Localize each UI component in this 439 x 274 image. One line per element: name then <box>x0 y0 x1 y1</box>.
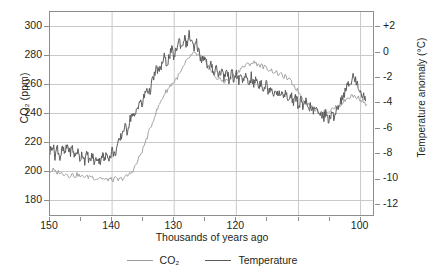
legend-label: CO₂ <box>160 254 180 266</box>
y-tick-right-+2: +2 <box>383 19 409 31</box>
y-tick-mark-right <box>375 26 380 27</box>
y-tick-left-300: 300 <box>8 19 42 31</box>
y-tick-mark-right <box>375 77 380 78</box>
y-tick-left-220: 220 <box>8 135 42 147</box>
legend-item: CO₂ <box>127 254 180 266</box>
y-axis-right-title: Temperature anomaly (°C) <box>416 23 427 173</box>
y-tick-right--12: -12 <box>383 197 409 209</box>
series-line-temperature <box>50 30 366 165</box>
y-tick-mark-right <box>375 204 380 205</box>
y-tick-left-260: 260 <box>8 77 42 89</box>
x-tick-label-130: 130 <box>153 219 193 231</box>
y-tick-right--8: -8 <box>383 146 409 158</box>
x-tick-mark <box>298 217 299 221</box>
legend-swatch <box>205 260 231 261</box>
y-tick-right--10: -10 <box>383 171 409 183</box>
x-tick-label-140: 140 <box>91 219 131 231</box>
y-tick-right--2: -2 <box>383 70 409 82</box>
legend-item: Temperature <box>205 254 297 266</box>
y-tick-left-240: 240 <box>8 106 42 118</box>
legend-swatch <box>127 260 153 261</box>
x-tick-mark <box>142 217 143 221</box>
y-tick-mark-right <box>375 52 380 53</box>
y-tick-left-180: 180 <box>8 193 42 205</box>
y-tick-mark-right <box>375 102 380 103</box>
y-tick-left-280: 280 <box>8 48 42 60</box>
y-tick-mark-right <box>375 153 380 154</box>
x-axis-title: Thousands of years ago <box>49 231 375 243</box>
y-tick-right--6: -6 <box>383 121 409 133</box>
chart-legend: CO₂Temperature <box>49 252 375 268</box>
chart-figure: CO₂ (ppm) Temperature anomaly (°C) Thous… <box>0 0 439 274</box>
x-tick-mark <box>204 217 205 221</box>
x-tick-mark <box>329 217 330 221</box>
legend-label: Temperature <box>238 254 297 266</box>
x-tick-mark <box>80 217 81 221</box>
y-tick-mark-right <box>375 128 380 129</box>
x-tick-label-150: 150 <box>29 219 69 231</box>
series-line-co2 <box>50 52 367 182</box>
y-tick-right-0: 0 <box>383 45 409 57</box>
y-tick-right--4: -4 <box>383 95 409 107</box>
plot-area <box>49 11 374 216</box>
x-tick-mark <box>266 217 267 221</box>
y-tick-mark-right <box>375 179 380 180</box>
x-tick-label-100: 100 <box>340 219 380 231</box>
x-tick-label-120: 120 <box>215 219 255 231</box>
plot-svg <box>50 12 373 215</box>
y-tick-left-200: 200 <box>8 164 42 176</box>
